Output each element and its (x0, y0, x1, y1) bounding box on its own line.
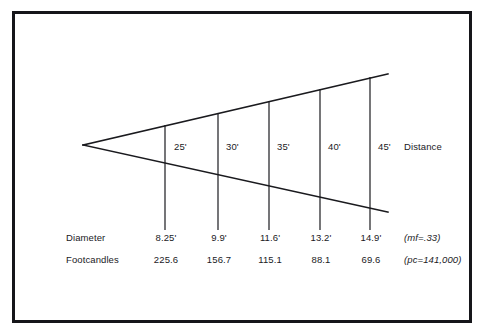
footcandles-value-40: 88.1 (312, 254, 331, 265)
distance-value-35: 35' (277, 141, 290, 152)
distance-value-40: 40' (328, 141, 341, 152)
footcandles-value-30: 156.7 (207, 254, 231, 265)
diameter-value-35: 11.6' (260, 232, 280, 243)
peak-candela-note: (pc=141,000) (404, 254, 461, 265)
diameter-value-25: 8.25' (156, 232, 177, 243)
footcandles-value-35: 115.1 (258, 254, 282, 265)
diameter-value-40: 13.2' (311, 232, 332, 243)
footcandles-value-45: 69.6 (362, 254, 381, 265)
footcandles-row-label: Footcandles (66, 254, 119, 265)
distance-row-label: Distance (404, 141, 442, 152)
distance-value-45: 45' (378, 141, 391, 152)
beam-spread-diagram-page: 25' 30' 35' 40' 45' Distance Diameter 8.… (0, 0, 483, 330)
distance-value-30: 30' (226, 141, 239, 152)
diameter-value-30: 9.9' (211, 232, 226, 243)
footcandles-value-25: 225.6 (154, 254, 178, 265)
diagram-border-frame (12, 11, 472, 323)
diameter-value-45: 14.9' (361, 232, 382, 243)
diameter-row-label: Diameter (66, 232, 105, 243)
distance-value-25: 25' (174, 141, 187, 152)
multiplying-factor-note: (mf=.33) (404, 232, 440, 243)
